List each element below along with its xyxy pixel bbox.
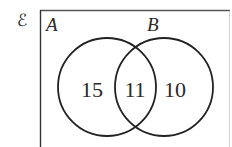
region-a-only-count: 15 bbox=[81, 77, 103, 102]
venn-diagram: ℰ A B 15 11 10 bbox=[0, 0, 232, 147]
region-a-and-b-count: 11 bbox=[124, 77, 145, 102]
set-a-label: A bbox=[44, 14, 58, 35]
set-b-label: B bbox=[147, 14, 159, 35]
region-b-only-count: 10 bbox=[164, 77, 186, 102]
universal-set-symbol: ℰ bbox=[17, 10, 27, 30]
